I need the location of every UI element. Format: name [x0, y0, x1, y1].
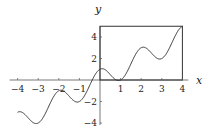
x-tick-label: −4 [11, 84, 25, 94]
y-tick-label: 4 [91, 32, 97, 42]
x-tick-label: −2 [52, 84, 65, 94]
x-tick-label: 2 [138, 84, 144, 94]
x-axis-label: x [196, 74, 203, 87]
y-tick-label: −2 [84, 97, 97, 107]
x-tick-label: −1 [73, 84, 86, 94]
function-plot: −4−3−2−11234−4−224 x y [0, 0, 214, 135]
y-tick-label: −4 [84, 118, 98, 128]
x-tick-label: 4 [180, 84, 186, 94]
x-tick-label: 3 [159, 84, 165, 94]
axes [10, 26, 189, 125]
x-tick-label: 1 [118, 84, 124, 94]
y-axis-label: y [94, 3, 102, 16]
x-tick-label: −3 [32, 84, 46, 94]
y-tick-label: 2 [91, 54, 97, 64]
bounding-box [100, 26, 182, 80]
bounding-rectangle [100, 26, 182, 80]
